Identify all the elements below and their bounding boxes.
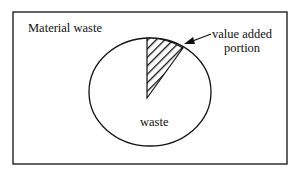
frame-label: Material waste: [28, 21, 102, 35]
wedge-label-line1: value added: [212, 27, 273, 41]
pie-label: waste: [140, 115, 169, 129]
wedge-label-line2: portion: [224, 41, 261, 55]
material-waste-diagram: Material waste waste value added portion: [0, 0, 295, 172]
